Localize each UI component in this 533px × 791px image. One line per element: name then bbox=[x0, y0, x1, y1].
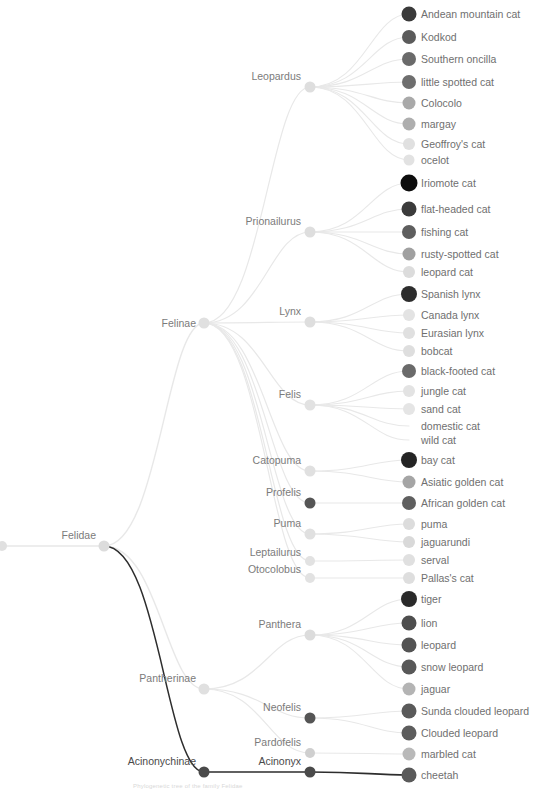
leaf-label-17[interactable]: black-footed cat bbox=[421, 366, 495, 377]
leaf-label-33[interactable]: jaguar bbox=[421, 684, 450, 695]
leaf-dot-11[interactable] bbox=[403, 248, 416, 261]
leaf-label-5[interactable]: margay bbox=[421, 119, 456, 130]
internal-label-felidae[interactable]: Felidae bbox=[62, 530, 96, 541]
leaf-dot-6[interactable] bbox=[403, 138, 415, 150]
node-acinonychinae[interactable] bbox=[199, 767, 210, 778]
leaf-label-31[interactable]: leopard bbox=[421, 640, 456, 651]
internal-label-leopardus[interactable]: Leopardus bbox=[251, 71, 301, 82]
leaf-dot-31[interactable] bbox=[402, 638, 417, 653]
leaf-dot-8[interactable] bbox=[401, 175, 418, 192]
leaf-dot-25[interactable] bbox=[403, 518, 415, 530]
leaf-label-2[interactable]: Southern oncilla bbox=[421, 54, 496, 65]
leaf-label-6[interactable]: Geoffroy's cat bbox=[421, 139, 485, 150]
leaf-dot-1[interactable] bbox=[402, 30, 416, 44]
internal-label-leptailurus[interactable]: Leptailurus bbox=[250, 547, 301, 558]
leaf-label-34[interactable]: Sunda clouded leopard bbox=[421, 706, 529, 717]
internal-label-neofelis[interactable]: Neofelis bbox=[263, 702, 301, 713]
leaf-dot-4[interactable] bbox=[403, 97, 416, 110]
leaf-label-28[interactable]: Pallas's cat bbox=[421, 573, 474, 584]
leaf-label-35[interactable]: Clouded leopard bbox=[421, 728, 498, 739]
leaf-dot-7[interactable] bbox=[404, 155, 415, 166]
leaf-dot-3[interactable] bbox=[402, 75, 416, 89]
leaf-dot-0[interactable] bbox=[402, 7, 417, 22]
internal-label-panthera[interactable]: Panthera bbox=[258, 619, 301, 630]
internal-label-pardofelis[interactable]: Pardofelis bbox=[254, 737, 301, 748]
leaf-dot-9[interactable] bbox=[402, 202, 417, 217]
leaf-label-14[interactable]: Canada lynx bbox=[421, 310, 479, 321]
leaf-dot-32[interactable] bbox=[402, 660, 417, 675]
leaf-dot-10[interactable] bbox=[402, 225, 416, 239]
internal-label-profelis[interactable]: Profelis bbox=[266, 487, 301, 498]
leaf-label-13[interactable]: Spanish lynx bbox=[421, 289, 481, 300]
node-panthera[interactable] bbox=[305, 630, 316, 641]
leaf-label-1[interactable]: Kodkod bbox=[421, 32, 457, 43]
node-pantherinae[interactable] bbox=[199, 684, 210, 695]
leaf-dot-18[interactable] bbox=[403, 385, 415, 397]
leaf-label-4[interactable]: Colocolo bbox=[421, 98, 462, 109]
node-otocolobus[interactable] bbox=[305, 573, 315, 583]
node-felinae[interactable] bbox=[199, 318, 210, 329]
leaf-dot-30[interactable] bbox=[402, 616, 417, 631]
leaf-dot-33[interactable] bbox=[403, 683, 416, 696]
leaf-label-30[interactable]: lion bbox=[421, 618, 437, 629]
leaf-dot-2[interactable] bbox=[402, 52, 416, 66]
leaf-label-21[interactable]: wild cat bbox=[421, 435, 456, 446]
internal-label-acinonyx[interactable]: Acinonyx bbox=[258, 756, 301, 767]
internal-label-lynx[interactable]: Lynx bbox=[279, 306, 301, 317]
node-felidae[interactable] bbox=[99, 541, 110, 552]
node-puma[interactable] bbox=[305, 529, 316, 540]
internal-label-prionailurus[interactable]: Prionailurus bbox=[246, 216, 301, 227]
leaf-dot-29[interactable] bbox=[401, 591, 417, 607]
leaf-label-11[interactable]: rusty-spotted cat bbox=[421, 249, 499, 260]
leaf-dot-27[interactable] bbox=[403, 554, 415, 566]
leaf-dot-16[interactable] bbox=[403, 345, 415, 357]
leaf-label-9[interactable]: flat-headed cat bbox=[421, 204, 490, 215]
leaf-label-3[interactable]: little spotted cat bbox=[421, 77, 494, 88]
leaf-label-36[interactable]: marbled cat bbox=[421, 749, 476, 760]
leaf-dot-24[interactable] bbox=[402, 496, 416, 510]
leaf-dot-22[interactable] bbox=[401, 452, 417, 468]
leaf-dot-26[interactable] bbox=[403, 536, 415, 548]
node-pardofelis[interactable] bbox=[305, 748, 315, 758]
node-neofelis[interactable] bbox=[305, 713, 316, 724]
internal-label-felis[interactable]: Felis bbox=[279, 389, 301, 400]
leaf-label-37[interactable]: cheetah bbox=[421, 770, 458, 781]
node-prionailurus[interactable] bbox=[305, 227, 316, 238]
leaf-label-22[interactable]: bay cat bbox=[421, 455, 455, 466]
node-profelis[interactable] bbox=[305, 498, 316, 509]
leaf-label-15[interactable]: Eurasian lynx bbox=[421, 328, 484, 339]
leaf-dot-37[interactable] bbox=[402, 768, 417, 783]
node-leopardus[interactable] bbox=[305, 82, 316, 93]
leaf-label-26[interactable]: jaguarundi bbox=[421, 537, 470, 548]
leaf-label-23[interactable]: Asiatic golden cat bbox=[421, 477, 503, 488]
leaf-dot-35[interactable] bbox=[402, 726, 417, 741]
leaf-dot-15[interactable] bbox=[403, 327, 415, 339]
internal-label-acinonychinae[interactable]: Acinonychinae bbox=[128, 756, 196, 767]
internal-label-felinae[interactable]: Felinae bbox=[162, 318, 196, 329]
leaf-label-20[interactable]: domestic cat bbox=[421, 421, 480, 432]
leaf-dot-5[interactable] bbox=[403, 118, 416, 131]
leaf-label-27[interactable]: serval bbox=[421, 555, 449, 566]
node-root-stub[interactable] bbox=[0, 541, 7, 551]
leaf-dot-17[interactable] bbox=[402, 364, 416, 378]
node-felis[interactable] bbox=[305, 400, 316, 411]
leaf-label-29[interactable]: tiger bbox=[421, 594, 441, 605]
internal-label-puma[interactable]: Puma bbox=[274, 518, 301, 529]
node-lynx[interactable] bbox=[305, 317, 316, 328]
leaf-label-12[interactable]: leopard cat bbox=[421, 267, 473, 278]
leaf-dot-12[interactable] bbox=[403, 266, 415, 278]
node-acinonyx[interactable] bbox=[305, 767, 316, 778]
leaf-label-18[interactable]: jungle cat bbox=[421, 386, 466, 397]
leaf-dot-23[interactable] bbox=[403, 476, 416, 489]
internal-label-catopuma[interactable]: Catopuma bbox=[253, 455, 301, 466]
leaf-label-19[interactable]: sand cat bbox=[421, 404, 461, 415]
leaf-label-16[interactable]: bobcat bbox=[421, 346, 453, 357]
leaf-label-32[interactable]: snow leopard bbox=[421, 662, 483, 673]
leaf-label-7[interactable]: ocelot bbox=[421, 155, 449, 166]
leaf-label-24[interactable]: African golden cat bbox=[421, 498, 505, 509]
leaf-label-0[interactable]: Andean mountain cat bbox=[421, 9, 520, 20]
leaf-dot-19[interactable] bbox=[403, 403, 415, 415]
leaf-label-8[interactable]: Iriomote cat bbox=[421, 178, 476, 189]
internal-label-otocolobus[interactable]: Otocolobus bbox=[248, 564, 301, 575]
leaf-dot-13[interactable] bbox=[401, 286, 417, 302]
